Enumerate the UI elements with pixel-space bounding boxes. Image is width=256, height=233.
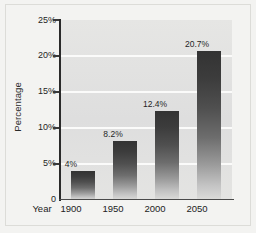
bar-1900[interactable] [71,171,95,200]
bar-2050[interactable] [197,51,221,200]
y-tick-label-10: 10% [22,122,56,132]
x-tick-label-1900: 1900 [48,203,94,214]
y-axis-line [59,19,61,201]
y-tick-label-15: 15% [22,86,56,96]
bar-2000[interactable] [155,111,179,200]
y-tick-label-20: 20% [22,50,56,60]
bar-chart-figure: Percentage 25% 20% 15% 10% 5% 0 4% 8.2% … [0,0,256,233]
bar-1950[interactable] [113,141,137,200]
x-tick-label-1950: 1950 [90,203,136,214]
x-axis-line [59,199,234,200]
bar-value-2050: 20.7% [174,39,220,49]
x-tick-label-2050: 2050 [174,203,220,214]
y-tick-label-25: 25% [22,15,56,25]
y-axis-tick-labels: 25% 20% 15% 10% 5% 0 [18,0,56,233]
bar-value-1900: 4% [48,159,94,169]
bar-value-1950: 8.2% [90,129,136,139]
bar-value-2000: 12.4% [132,99,178,109]
x-tick-label-2000: 2000 [132,203,178,214]
